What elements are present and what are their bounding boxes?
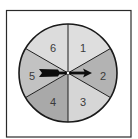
sector-label-1: 1 bbox=[80, 42, 86, 54]
sector-label-3: 3 bbox=[80, 96, 86, 108]
sector-label-4: 4 bbox=[50, 96, 56, 108]
spinner-diagram: 1 2 3 4 5 6 bbox=[0, 0, 138, 139]
sector-label-2: 2 bbox=[100, 70, 106, 82]
sector-label-5: 5 bbox=[29, 70, 35, 82]
sector-label-6: 6 bbox=[50, 42, 56, 54]
